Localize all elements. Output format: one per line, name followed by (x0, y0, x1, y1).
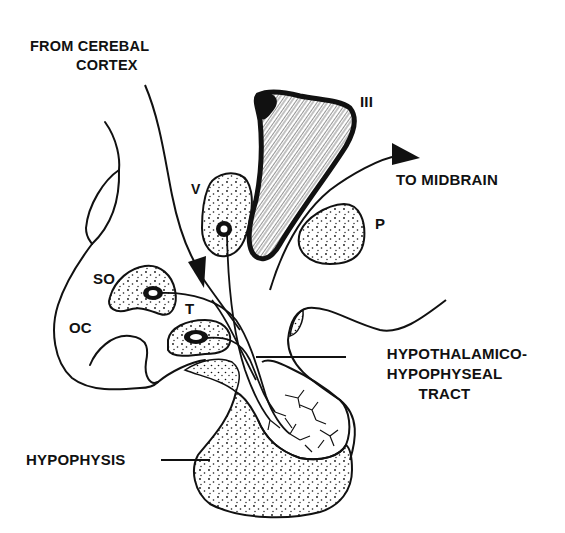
midbrain-arrowhead (392, 143, 420, 165)
stalk-stipple (185, 359, 239, 392)
label-to-midbrain: TO MIDBRAIN (396, 172, 498, 187)
label-tract-3: TRACT (352, 386, 537, 401)
label-paraventricular: V (191, 182, 201, 196)
label-from-cerebral-cortex-2: CORTEX (76, 58, 138, 73)
cortex-afferent-arrow (145, 85, 198, 268)
cortex-arrowhead (188, 256, 206, 288)
hypophysis-gland (194, 360, 352, 517)
label-third-ventricle: III (360, 94, 373, 109)
label-posterior: P (375, 216, 385, 231)
label-tract-1: HYPOTHALAMICO- (352, 346, 562, 361)
label-tract-2: HYPOPHYSEAL (352, 366, 537, 381)
label-hypophysis: HYPOPHYSIS (26, 452, 126, 467)
supraoptic-nucleus (109, 266, 176, 315)
label-optic-chiasm: OC (69, 320, 92, 335)
hypothalamus-diagram: FROM CEREBAL CORTEX III TO MIDBRAIN V P … (0, 0, 565, 533)
label-supraoptic: SO (93, 271, 115, 286)
label-from-cerebral-cortex-1: FROM CEREBAL (30, 39, 149, 54)
label-tuberal: T (185, 301, 194, 316)
